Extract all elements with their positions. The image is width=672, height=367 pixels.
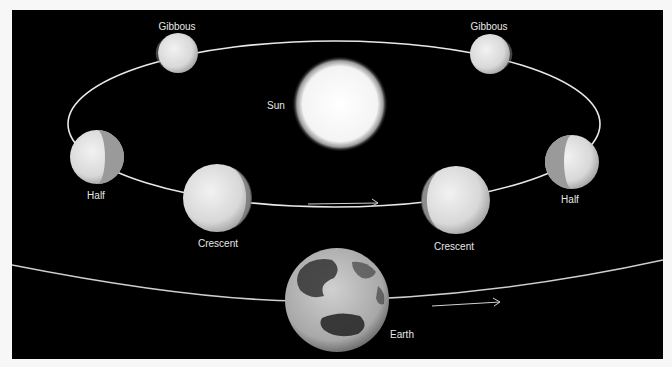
venus-crescent-right-icon: [421, 166, 490, 234]
label-crescent-right: Crescent: [434, 241, 474, 252]
diagram-canvas: [12, 10, 663, 359]
venus-half-right-icon: [545, 135, 599, 189]
label-crescent-left: Crescent: [198, 238, 238, 249]
label-gibbous-right: Gibbous: [470, 21, 507, 32]
label-half-left: Half: [87, 190, 105, 201]
venus-orbit-arrow-icon: [308, 199, 378, 206]
label-half-right: Half: [561, 194, 579, 205]
venus-crescent-left-icon: [183, 164, 252, 232]
venus-gibbous-right-icon: [470, 34, 512, 74]
venus-gibbous-left-icon: [156, 33, 198, 73]
earth-icon: [285, 248, 389, 352]
earth-orbit-arrow-icon: [432, 298, 500, 306]
sun-icon: [292, 56, 388, 152]
label-gibbous-left: Gibbous: [158, 21, 195, 32]
label-earth: Earth: [390, 329, 414, 340]
venus-half-left-icon: [70, 130, 124, 184]
diagram-panel: Gibbous Gibbous Sun Half Half Crescent C…: [12, 10, 663, 359]
label-sun: Sun: [267, 100, 285, 111]
